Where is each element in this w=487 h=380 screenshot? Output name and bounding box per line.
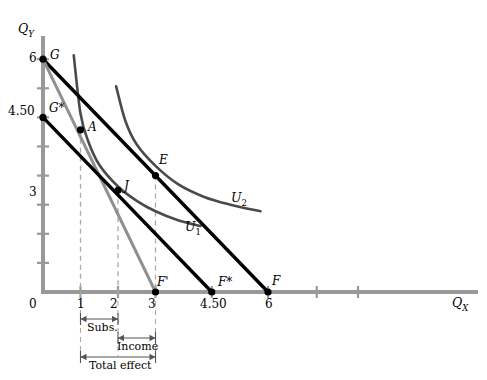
indifference-curve-figure: QY QX 0 6 4.50 3 1 2 3 4.50 6 G G* A J E… bbox=[0, 0, 487, 380]
axes-group bbox=[41, 36, 478, 292]
point-label-Fprime: F' bbox=[157, 276, 169, 288]
x-tick-label-3: 3 bbox=[148, 298, 156, 310]
compensated-budget-line-Gstar-Fstar bbox=[43, 117, 212, 292]
marker-Fstar bbox=[208, 288, 215, 295]
bracket-label-income: Income bbox=[117, 341, 158, 352]
point-label-E: E bbox=[159, 154, 168, 166]
curve-label-U2: U2 bbox=[231, 192, 247, 207]
marker-J bbox=[114, 187, 121, 194]
curve-label-U1: U1 bbox=[185, 221, 201, 236]
bracket-label-substitution: Subs. bbox=[87, 322, 118, 333]
x-axis-title: QX bbox=[452, 297, 468, 312]
marker-Gstar bbox=[39, 114, 46, 121]
bracket-label-total-effect: Total effect bbox=[89, 360, 152, 371]
marker-E bbox=[152, 172, 159, 179]
plot-area bbox=[0, 0, 487, 380]
point-label-Fstar: F* bbox=[218, 276, 232, 288]
y-tick-label-450: 4.50 bbox=[8, 105, 35, 117]
marker-Fprime bbox=[152, 288, 159, 295]
x-tick-label-1: 1 bbox=[77, 298, 85, 310]
x-tick-label-6: 6 bbox=[265, 298, 273, 310]
point-label-Gstar: G* bbox=[49, 102, 65, 114]
point-label-J: J bbox=[124, 180, 129, 192]
marker-G bbox=[39, 56, 46, 63]
origin-label: 0 bbox=[29, 298, 37, 310]
point-label-G: G bbox=[50, 49, 60, 61]
marker-F bbox=[264, 288, 271, 295]
point-label-F: F bbox=[272, 275, 280, 287]
y-tick-label-3: 3 bbox=[29, 186, 37, 198]
point-label-A: A bbox=[88, 121, 97, 133]
x-tick-label-450: 4.50 bbox=[200, 298, 227, 310]
y-tick-label-6: 6 bbox=[29, 52, 37, 64]
marker-A bbox=[77, 126, 84, 133]
x-tick-label-2: 2 bbox=[110, 298, 118, 310]
y-axis-title: QY bbox=[18, 23, 34, 38]
